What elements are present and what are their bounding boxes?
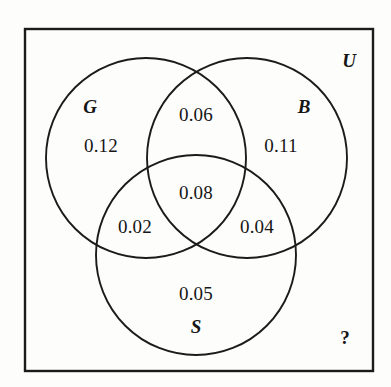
- region-value-s-only: 0.05: [179, 284, 213, 303]
- region-value-outside-unknown: ?: [340, 328, 350, 347]
- region-value-g-only: 0.12: [84, 136, 118, 155]
- region-value-g-and-s: 0.02: [118, 217, 152, 236]
- venn-diagram: U G B S 0.12 0.11 0.06 0.08 0.02 0.04 0.…: [0, 0, 391, 387]
- region-value-g-b-s: 0.08: [179, 183, 213, 202]
- region-value-b-and-s: 0.04: [240, 217, 274, 236]
- set-label-s: S: [191, 317, 202, 336]
- region-value-g-and-b: 0.06: [179, 105, 213, 124]
- set-label-b: B: [298, 97, 311, 116]
- set-label-g: G: [83, 97, 97, 116]
- region-value-b-only: 0.11: [264, 136, 297, 155]
- universe-label: U: [342, 51, 356, 70]
